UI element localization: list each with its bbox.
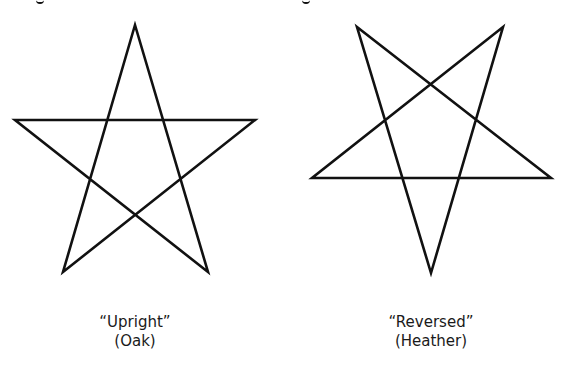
reversed-caption: “Reversed” (Heather) [351, 313, 511, 351]
upright-subtitle: (Oak) [55, 332, 215, 351]
reversed-title: “Reversed” [351, 313, 511, 332]
reversed-subtitle: (Heather) [351, 332, 511, 351]
upright-title: “Upright” [55, 313, 215, 332]
upright-caption: “Upright” (Oak) [55, 313, 215, 351]
reversed-pentagram [312, 27, 551, 273]
upright-pentagram [15, 25, 255, 272]
